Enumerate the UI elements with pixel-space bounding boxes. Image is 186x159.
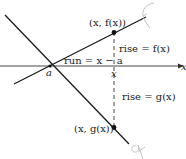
run-label: run = x − a <box>64 55 123 66</box>
f-point-label: (x, f(x)) <box>89 17 126 28</box>
point-f <box>112 30 117 35</box>
g-point-label: (x, g(x)) <box>74 123 114 134</box>
rise-g-label: rise = g(x) <box>122 91 176 102</box>
linear-functions-diagram: x (x, f(x)) rise = f(x) run = x − a a x … <box>0 0 186 159</box>
point-a-label: a <box>46 67 52 78</box>
g-handwritten-annotation-icon <box>132 145 145 159</box>
f-handwritten-annotation-icon <box>143 3 154 28</box>
rise-f-label: rise = f(x) <box>119 43 170 54</box>
point-x-label: x <box>111 68 117 79</box>
x-axis-label: x <box>181 61 186 72</box>
